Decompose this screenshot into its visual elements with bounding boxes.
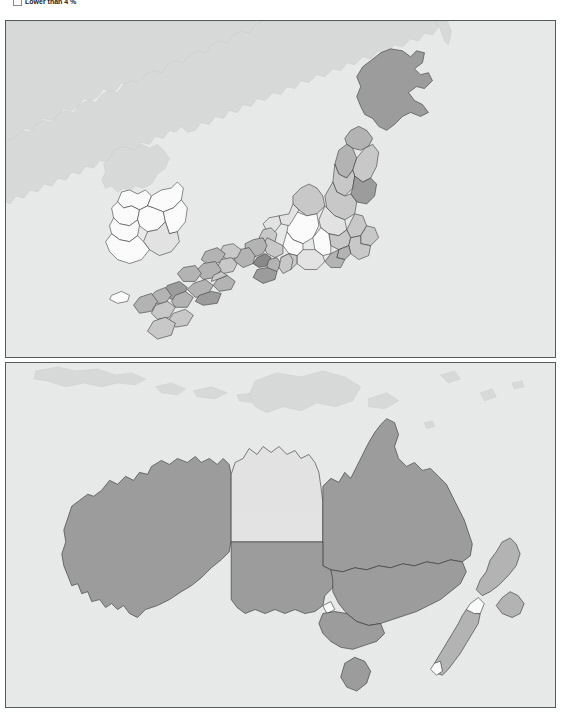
map-panel-oceania[interactable]: .nd2 { fill:#d9dbdb; stroke:#c6c8c8; str… [5, 362, 556, 708]
legend-swatch-lower-than-4 [13, 0, 22, 6]
asia-map-svg[interactable]: .nd { fill:#d9dbdb; stroke:#c2c4c4; stro… [6, 21, 555, 357]
oceania-map-svg[interactable]: .nd2 { fill:#d9dbdb; stroke:#c6c8c8; str… [6, 363, 555, 707]
region-south-australia [231, 542, 335, 614]
legend-label-lower-than-4: Lower than 4 % [25, 0, 76, 6]
region-northern-territory [231, 447, 323, 542]
map-panel-asia[interactable]: .nd { fill:#d9dbdb; stroke:#c2c4c4; stro… [5, 20, 556, 358]
map-legend: Lower than 4 % [13, 0, 76, 8]
